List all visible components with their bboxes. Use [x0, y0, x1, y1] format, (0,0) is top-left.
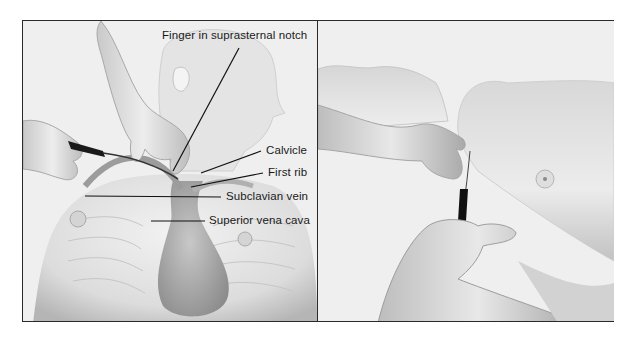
label-first-rib: First rib: [268, 166, 307, 178]
label-subclavian-vein: Subclavian vein: [226, 190, 308, 202]
panel-lateral-view: [318, 21, 614, 321]
caption-strip: [22, 328, 612, 340]
illustration-figure: Finger in suprasternal notch Calvicle Fi…: [22, 20, 614, 322]
nipple-left: [70, 211, 86, 227]
nipple-right: [238, 232, 252, 246]
lateral-illustration: [318, 21, 614, 321]
panel-anterior-view: Finger in suprasternal notch Calvicle Fi…: [23, 21, 318, 321]
label-finger-suprasternal-notch: Finger in suprasternal notch: [162, 29, 307, 41]
label-clavicle: Calvicle: [266, 144, 307, 156]
label-superior-vena-cava: Superior vena cava: [209, 214, 310, 226]
